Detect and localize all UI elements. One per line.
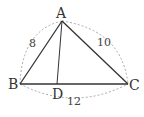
- side-ab: [20, 21, 62, 84]
- length-bc: 12: [67, 95, 81, 108]
- label-d: D: [52, 86, 63, 102]
- length-ab: 8: [29, 37, 36, 50]
- segment-ad: [57, 21, 62, 84]
- length-ac: 10: [97, 36, 111, 49]
- label-c: C: [129, 77, 140, 93]
- label-b: B: [8, 76, 18, 92]
- label-a: A: [55, 5, 67, 21]
- side-ac: [62, 21, 128, 84]
- triangle-diagram: A B C D 8 10 12: [0, 0, 144, 117]
